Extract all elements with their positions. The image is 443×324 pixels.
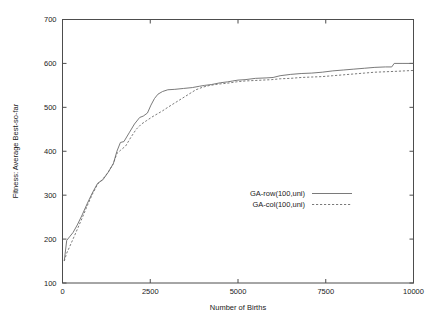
x-axis-title: Number of Births [210, 303, 267, 312]
y-tick-label-600: 600 [44, 59, 57, 68]
y-tick-label-400: 400 [44, 147, 57, 156]
chart-figure: 100200300400500600700 025005000750010000… [0, 0, 443, 324]
series-line-1 [64, 70, 413, 261]
x-tick-label-0: 0 [60, 287, 64, 296]
y-axis-tick-labels: 100200300400500600700 [44, 15, 57, 288]
x-tick-label-5000: 5000 [230, 287, 247, 296]
legend-label-0: GA-row(100,uni) [250, 189, 306, 198]
y-tick-label-500: 500 [44, 103, 57, 112]
series-layer [64, 63, 413, 261]
series-line-0 [64, 63, 413, 261]
legend-label-1: GA-col(100,uni) [252, 200, 305, 209]
x-axis-ticks [63, 20, 414, 284]
x-tick-label-7500: 7500 [317, 287, 334, 296]
x-tick-label-2500: 2500 [142, 287, 159, 296]
axis-frame [63, 20, 414, 284]
plot-canvas: 100200300400500600700 025005000750010000… [0, 0, 443, 324]
chart-legend: GA-row(100,uni) GA-col(100,uni) [250, 189, 352, 209]
y-axis-ticks [63, 20, 414, 284]
x-axis-tick-labels: 025005000750010000 [60, 287, 424, 296]
y-tick-label-100: 100 [44, 279, 57, 288]
y-tick-label-300: 300 [44, 191, 57, 200]
x-tick-label-10000: 10000 [403, 287, 424, 296]
y-tick-label-200: 200 [44, 235, 57, 244]
y-axis-title: Fitness: Average Best-so-far [11, 103, 20, 198]
y-tick-label-700: 700 [44, 15, 57, 24]
